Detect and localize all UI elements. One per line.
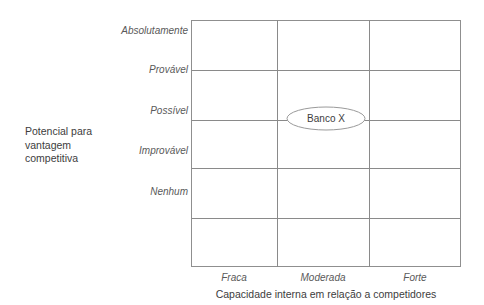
x-tick-moderada: Moderada: [277, 272, 369, 283]
y-tick-provavel: Provável: [60, 64, 188, 75]
y-tick-nenhum: Nenhum: [60, 186, 188, 197]
matrix-grid: [191, 20, 461, 267]
grid-vline-right: [460, 20, 461, 267]
marker-banco-x-label: Banco X: [286, 106, 366, 131]
x-tick-forte: Forte: [369, 272, 461, 283]
grid-vline-1: [277, 20, 278, 267]
competitive-positioning-matrix: Potencial para vantagem competitiva Abso…: [0, 0, 484, 305]
grid-hline-bottom: [191, 266, 461, 267]
y-tick-possivel: Possível: [60, 105, 188, 116]
grid-hline-3: [191, 168, 461, 169]
x-tick-fraca: Fraca: [191, 272, 277, 283]
y-tick-absolutamente: Absolutamente: [60, 25, 188, 36]
grid-hline-top: [191, 20, 461, 21]
x-axis-title: Capacidade interna em relação a competid…: [191, 288, 461, 300]
grid-hline-4: [191, 218, 461, 219]
y-tick-improvavel: Improvável: [60, 145, 188, 156]
y-axis-tick-labels: Absolutamente Provável Possível Improváv…: [60, 0, 188, 305]
marker-banco-x[interactable]: Banco X: [286, 106, 366, 131]
grid-hline-1: [191, 70, 461, 71]
grid-vline-left: [191, 20, 192, 267]
grid-vline-2: [369, 20, 370, 267]
